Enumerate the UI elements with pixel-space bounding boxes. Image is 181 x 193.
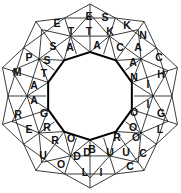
puzzle-letter: H [157,68,165,80]
puzzle-letter: A [30,94,38,106]
puzzle-letter: R [51,134,59,146]
puzzle-letter: K [123,19,131,31]
puzzle-letter: A [30,79,38,91]
puzzle-letter: L [82,166,89,178]
puzzle-edge [90,174,115,188]
puzzle-letter: T [68,25,75,37]
puzzle-edge [39,30,42,59]
puzzle-letter: E [85,10,92,22]
puzzle-letter: O [67,132,75,144]
puzzle-letter: T [86,25,93,37]
puzzle-letter: S [43,54,50,66]
puzzle-edge [65,156,71,174]
puzzle-edge [141,133,156,144]
puzzle-edge [141,121,168,133]
puzzle-edge [36,162,42,170]
puzzle-letter: T [41,67,48,79]
puzzle-letter: R [14,108,22,120]
puzzle-letter: E [53,17,60,29]
puzzle-letter: B [88,143,96,155]
puzzle-letter: A [134,41,142,53]
puzzle-letter: G [40,107,48,119]
puzzle-letter: A [93,39,101,51]
puzzle-letter: R [43,121,51,133]
puzzle-letter: P [25,51,32,63]
puzzle-edge [141,48,156,59]
puzzle-letter: U [122,146,130,158]
puzzle-letter: O [132,131,140,143]
puzzle-letter: I [100,166,103,178]
puzzle-letter: E [25,123,32,135]
puzzle-letter: G [157,107,165,119]
puzzle-edge [109,156,115,174]
star-word-wheel-diagram: ESTTKEKNSAACAPSACMTNHAIAIRGOGEROLROROUDB… [0,0,181,193]
puzzle-edge [138,162,144,170]
inner-circle [48,52,132,140]
puzzle-letter: A [66,41,74,53]
puzzle-edge [172,96,178,124]
puzzle-edge [36,22,42,30]
puzzle-letter: U [39,149,47,161]
puzzle-letter: L [157,123,164,135]
puzzle-edge [168,68,178,71]
puzzle-letter: M [13,66,22,78]
puzzle-letter: C [155,51,163,63]
puzzle-letter: O [130,106,138,118]
puzzle-canvas: ESTTKEKNSAACAPSACMTNHAIAIRGOGEROLROROUDB… [0,0,181,193]
puzzle-edge [3,68,13,71]
puzzle-edge [132,82,153,96]
puzzle-letter: I [147,98,150,110]
puzzle-edge [3,68,9,96]
puzzle-letter: K [106,25,114,37]
puzzle-letter: N [130,71,138,83]
puzzle-letter: I [147,78,150,90]
puzzle-letter: R [113,131,121,143]
puzzle-edge [168,121,178,124]
puzzle-letter: S [101,11,108,23]
puzzle-letter: A [129,56,137,68]
puzzle-edge [3,121,13,124]
puzzle-edge [172,68,178,96]
puzzle-letter: N [139,29,147,41]
puzzle-letter: D [73,150,81,162]
puzzle-letter: S [49,40,56,52]
puzzle-edge [3,96,9,124]
puzzle-letter: C [116,41,124,53]
puzzle-letter: C [139,147,147,159]
puzzle-letter: C [126,160,134,172]
puzzle-letter: U [106,146,114,158]
puzzle-letter: O [57,158,65,170]
